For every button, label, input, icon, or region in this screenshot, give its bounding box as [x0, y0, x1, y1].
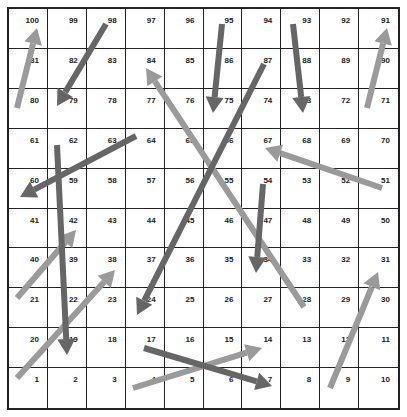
cell-number: 83 — [108, 56, 117, 65]
board-cell: 6 — [204, 368, 243, 408]
cell-number: 70 — [381, 136, 390, 145]
board-cell: 57 — [126, 169, 165, 209]
board-cell: 9 — [320, 368, 359, 408]
cell-number: 92 — [341, 16, 350, 25]
cell-number: 68 — [302, 136, 311, 145]
cell-number: 88 — [302, 56, 311, 65]
board-cell: 80 — [9, 89, 48, 129]
cell-number: 4 — [151, 375, 155, 384]
cell-number: 77 — [147, 96, 156, 105]
board-cell: 59 — [48, 169, 87, 209]
board-cell: 19 — [48, 328, 87, 368]
board-cell: 53 — [281, 169, 320, 209]
cell-number: 89 — [341, 56, 350, 65]
board-cell: 58 — [87, 169, 126, 209]
cell-number: 82 — [69, 56, 78, 65]
cell-number: 41 — [30, 216, 39, 225]
cell-number: 11 — [382, 335, 390, 344]
board-cell: 52 — [320, 169, 359, 209]
board-cell: 5 — [165, 368, 204, 408]
board-cell: 71 — [359, 89, 398, 129]
board-cell: 54 — [242, 169, 281, 209]
board-cell: 37 — [126, 248, 165, 288]
board-cell: 90 — [359, 49, 398, 89]
cell-number: 13 — [302, 335, 311, 344]
board-cell: 15 — [204, 328, 243, 368]
board-cell: 88 — [281, 49, 320, 89]
cell-number: 87 — [263, 56, 272, 65]
board-grid: 1009998979695949392918182838485868788899… — [9, 9, 398, 408]
board-cell: 31 — [359, 248, 398, 288]
cell-number: 52 — [341, 176, 350, 185]
cell-number: 79 — [69, 96, 78, 105]
board-cell: 17 — [126, 328, 165, 368]
cell-number: 6 — [229, 375, 233, 384]
cell-number: 32 — [341, 255, 350, 264]
board-cell: 32 — [320, 248, 359, 288]
cell-number: 46 — [224, 216, 233, 225]
cell-number: 51 — [381, 176, 390, 185]
board-cell: 62 — [48, 129, 87, 169]
cell-number: 28 — [302, 295, 311, 304]
board-cell: 95 — [204, 9, 243, 49]
board-cell: 12 — [320, 328, 359, 368]
cell-number: 58 — [108, 176, 117, 185]
board-cell: 83 — [87, 49, 126, 89]
cell-number: 53 — [302, 176, 311, 185]
cell-number: 76 — [186, 96, 195, 105]
cell-number: 16 — [186, 335, 195, 344]
cell-number: 97 — [147, 16, 156, 25]
board-cell: 85 — [165, 49, 204, 89]
cell-number: 66 — [224, 136, 233, 145]
board-cell: 79 — [48, 89, 87, 129]
board-cell: 60 — [9, 169, 48, 209]
board-cell: 18 — [87, 328, 126, 368]
cell-number: 44 — [147, 216, 156, 225]
board-cell: 66 — [204, 129, 243, 169]
cell-number: 73 — [302, 96, 311, 105]
cell-number: 1 — [34, 375, 38, 384]
board-cell: 46 — [204, 209, 243, 249]
board-cell: 93 — [281, 9, 320, 49]
cell-number: 67 — [263, 136, 272, 145]
board-cell: 63 — [87, 129, 126, 169]
cell-number: 90 — [381, 56, 390, 65]
cell-number: 23 — [108, 295, 117, 304]
board-cell: 36 — [165, 248, 204, 288]
cell-number: 62 — [69, 136, 78, 145]
board-cell: 38 — [87, 248, 126, 288]
board-cell: 27 — [242, 288, 281, 328]
board-cell: 7 — [242, 368, 281, 408]
board-cell: 64 — [126, 129, 165, 169]
board-cell: 51 — [359, 169, 398, 209]
cell-number: 49 — [341, 216, 350, 225]
cell-number: 24 — [147, 295, 156, 304]
board-cell: 100 — [9, 9, 48, 49]
cell-number: 95 — [224, 16, 233, 25]
board-cell: 24 — [126, 288, 165, 328]
cell-number: 37 — [147, 255, 156, 264]
board-cell: 21 — [9, 288, 48, 328]
cell-number: 34 — [263, 255, 272, 264]
cell-number: 48 — [302, 216, 311, 225]
cell-number: 98 — [108, 16, 117, 25]
board-cell: 2 — [48, 368, 87, 408]
cell-number: 31 — [381, 255, 390, 264]
cell-number: 61 — [30, 136, 39, 145]
board-cell: 35 — [204, 248, 243, 288]
board-cell: 10 — [359, 368, 398, 408]
cell-number: 85 — [186, 56, 195, 65]
cell-number: 93 — [302, 16, 311, 25]
cell-number: 55 — [224, 176, 233, 185]
cell-number: 33 — [302, 255, 311, 264]
board-cell: 72 — [320, 89, 359, 129]
board-cell: 77 — [126, 89, 165, 129]
cell-number: 12 — [341, 335, 350, 344]
cell-number: 72 — [341, 96, 350, 105]
cell-number: 39 — [69, 255, 78, 264]
cell-number: 78 — [108, 96, 117, 105]
game-board: 1009998979695949392918182838485868788899… — [7, 7, 400, 410]
cell-number: 5 — [190, 375, 194, 384]
cell-number: 91 — [381, 16, 390, 25]
cell-number: 38 — [108, 255, 117, 264]
